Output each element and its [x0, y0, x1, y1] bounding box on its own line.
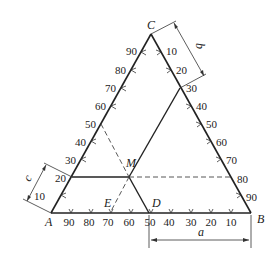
bottom-tick-40: 40	[164, 216, 176, 228]
left-axis-labels: 10 20 30 40 50 60 70 80 90	[34, 45, 138, 202]
point-label-M: M	[125, 156, 137, 170]
line-M-to-D	[129, 177, 149, 213]
bottom-tick-50: 50	[145, 216, 157, 228]
dimension-b: b	[151, 21, 207, 88]
ternary-diagram: 10 20 30 40 50 60 70 80 90 10 20 30 40 5…	[0, 0, 279, 266]
point-label-E: E	[103, 196, 112, 210]
right-tick-60: 60	[216, 136, 228, 148]
bottom-tick-30: 30	[186, 216, 198, 228]
edge-AC	[51, 34, 151, 213]
dashed-AC50-to-M	[101, 124, 129, 177]
left-tick-40: 40	[75, 136, 87, 148]
bottom-tick-60: 60	[124, 216, 136, 228]
left-axis-ticks	[61, 50, 146, 198]
left-tick-10: 10	[34, 190, 46, 202]
left-tick-90: 90	[126, 45, 138, 57]
bottom-tick-90: 90	[64, 216, 76, 228]
bottom-tick-10: 10	[226, 216, 238, 228]
edge-CB	[151, 34, 251, 213]
right-tick-80: 80	[237, 173, 249, 185]
left-tick-60: 60	[95, 100, 107, 112]
line-M-to-CB30	[129, 88, 180, 177]
right-axis-ticks	[156, 50, 241, 198]
vertex-label-B: B	[257, 212, 265, 226]
dashed-M-to-E	[110, 177, 129, 213]
vertex-label-A: A	[44, 215, 53, 229]
bottom-tick-80: 80	[84, 216, 96, 228]
point-label-D: D	[151, 196, 161, 210]
left-tick-30: 30	[65, 154, 77, 166]
right-axis-labels: 10 20 30 40 50 60 70 80 90	[166, 45, 258, 203]
triangle-outline	[51, 34, 251, 213]
left-tick-50: 50	[85, 118, 97, 130]
bottom-axis-labels: 90 80 70 60 50 40 30 20 10	[64, 216, 238, 228]
right-tick-50: 50	[206, 118, 218, 130]
right-tick-10: 10	[166, 45, 178, 57]
dimension-label-c: c	[20, 172, 35, 184]
left-tick-70: 70	[105, 82, 117, 94]
dimension-label-b: b	[193, 43, 207, 49]
left-tick-80: 80	[115, 64, 127, 76]
right-tick-40: 40	[196, 100, 208, 112]
right-tick-90: 90	[246, 191, 258, 203]
right-tick-20: 20	[176, 64, 188, 76]
vertex-label-C: C	[147, 18, 156, 32]
right-tick-70: 70	[226, 154, 238, 166]
dimension-label-a: a	[198, 225, 204, 239]
bottom-tick-70: 70	[103, 216, 115, 228]
bottom-tick-20: 20	[206, 216, 218, 228]
